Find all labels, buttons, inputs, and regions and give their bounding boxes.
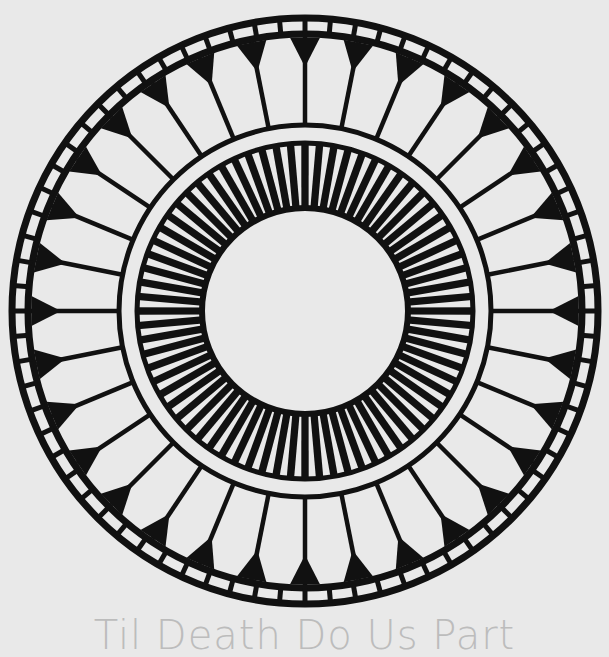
- caption-text: Til Death Do Us Part: [0, 612, 609, 657]
- mandala-artwork: [0, 0, 609, 657]
- ray-ring-inner-edge: [202, 208, 408, 414]
